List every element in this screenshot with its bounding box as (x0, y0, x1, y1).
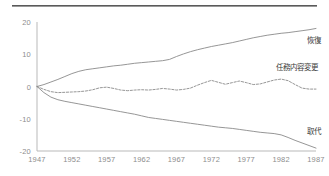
series-line-1 (37, 79, 316, 93)
y-tick-label: 10 (11, 50, 31, 59)
series-line-2 (37, 87, 316, 149)
x-tick-label: 1972 (198, 155, 224, 164)
x-tick-label: 1952 (59, 155, 85, 164)
chart-series-group (37, 28, 316, 148)
y-tick-label: 0 (11, 83, 31, 92)
series-line-0 (37, 28, 316, 86)
series-label-1: 任務内容変更 (276, 61, 318, 72)
chart-axes (37, 22, 316, 151)
x-tick-label: 1957 (94, 155, 120, 164)
y-tick-label: -10 (11, 115, 31, 124)
x-tick-label: 1947 (24, 155, 50, 164)
series-label-0: 恢復 (307, 34, 321, 45)
series-label-2: 取代 (307, 125, 321, 136)
x-tick-label: 1982 (268, 155, 294, 164)
x-tick-label: 1962 (129, 155, 155, 164)
y-tick-label: 20 (11, 18, 31, 27)
x-tick-label: 1987 (303, 155, 329, 164)
x-tick-label: 1967 (164, 155, 190, 164)
x-tick-label: 1977 (233, 155, 259, 164)
